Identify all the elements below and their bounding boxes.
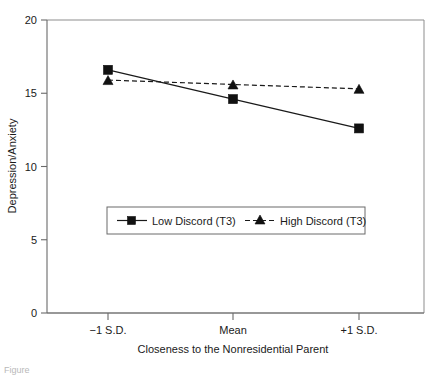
data-point-0-0 (104, 65, 113, 74)
y-axis-tick-labels: 20 15 10 5 0 (25, 14, 37, 319)
x-tick-label-minus1sd: −1 S.D. (90, 324, 127, 336)
x-axis-ticks (108, 313, 359, 320)
y-tick-label-20: 20 (25, 14, 37, 26)
depression-anxiety-line-chart: 20 15 10 5 0 Depression/Anxiety −1 S.D. … (0, 0, 436, 375)
y-axis-title: Depression/Anxiety (6, 118, 18, 213)
x-tick-label-plus1sd: +1 S.D. (341, 324, 378, 336)
figure-container: 20 15 10 5 0 Depression/Anxiety −1 S.D. … (0, 0, 436, 375)
legend-label-low-discord: Low Discord (T3) (152, 215, 236, 227)
data-point-1-2 (354, 84, 364, 93)
legend-entry-low-discord[interactable]: Low Discord (T3) (117, 215, 236, 227)
y-tick-label-10: 10 (25, 161, 37, 173)
legend-label-high-discord: High Discord (T3) (280, 215, 366, 227)
data-point-0-1 (229, 95, 238, 104)
y-tick-label-0: 0 (31, 307, 37, 319)
y-tick-label-15: 15 (25, 87, 37, 99)
y-axis-ticks (41, 20, 47, 313)
data-point-0-2 (355, 124, 364, 133)
y-tick-label-5: 5 (31, 234, 37, 246)
plot-frame (47, 20, 424, 313)
chart-legend: Low Discord (T3) High Discord (T3) (107, 207, 366, 234)
series-low-discord (104, 65, 364, 133)
x-tick-label-mean: Mean (219, 324, 247, 336)
figure-caption-partial: Figure (4, 365, 30, 375)
x-axis-tick-labels: −1 S.D. Mean +1 S.D. (90, 324, 378, 336)
x-axis-title: Closeness to the Nonresidential Parent (138, 343, 329, 355)
